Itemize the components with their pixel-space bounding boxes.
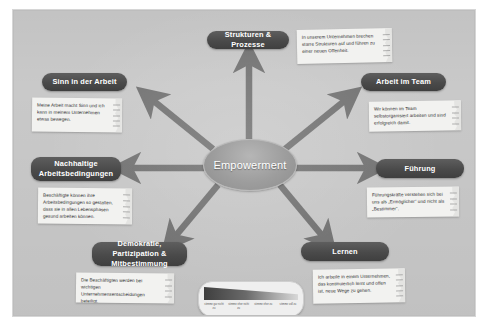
node-arbeit-im-team[interactable]: Arbeit im Team	[361, 73, 446, 91]
node-nachhaltige-arbeitsbedingungen[interactable]: Nachhaltige Arbeitsbedingungen	[31, 157, 121, 181]
note-rule-marks	[396, 272, 403, 298]
arrow-to-sinn	[150, 98, 213, 149]
center-node-label: Empowerment	[213, 159, 286, 171]
arrow-to-team	[285, 98, 348, 149]
note-arbeit-im-team: Wir können im Team selbstorganisiert arb…	[369, 100, 461, 131]
scale-label-0: stimme gar nicht zu	[203, 303, 225, 311]
node-sinn-in-der-arbeit-label: Sinn in der Arbeit	[52, 77, 116, 87]
note-rule-marks	[113, 102, 120, 128]
note-demokratie-partizipation-mitbestimmung-text: Die Beschäftigten werden bei wichtigen U…	[81, 277, 145, 303]
center-node-empowerment: Empowerment	[203, 139, 297, 191]
note-rule-marks	[165, 277, 172, 299]
arrow-to-lernen	[280, 185, 325, 239]
note-rule-marks	[123, 192, 130, 220]
scale-label-3: stimme voll zu	[277, 303, 299, 311]
scale-labels: stimme gar nicht zu stimme eher nicht zu…	[203, 303, 299, 311]
note-demokratie-partizipation-mitbestimmung: Die Beschäftigten werden bei wichtigen U…	[76, 272, 174, 303]
node-demokratie-partizipation-mitbestimmung[interactable]: Demokratie, Partizipation & Mitbestimmun…	[92, 242, 187, 266]
scale-label-2: stimme eher zu	[252, 303, 274, 311]
node-fuehrung-label: Führung	[404, 164, 435, 174]
node-lernen-label: Lernen	[332, 247, 358, 257]
node-sinn-in-der-arbeit[interactable]: Sinn in der Arbeit	[42, 73, 127, 91]
note-nachhaltige-arbeitsbedingungen-text: Beschäftigte können ihre Arbeitsbedingun…	[43, 193, 113, 220]
note-sinn-in-der-arbeit-text: Meine Arbeit macht Sinn und ich kann in …	[37, 103, 105, 123]
note-lernen-text: Ich arbeite in einem Unternehmen, das ko…	[318, 274, 390, 294]
node-lernen[interactable]: Lernen	[301, 242, 389, 261]
node-demokratie-partizipation-mitbestimmung-label: Demokratie, Partizipation & Mitbestimmun…	[99, 239, 180, 269]
arrow-to-demokratie	[173, 185, 218, 239]
note-strukturen-prozesse-text: In unserem Unternehmen brechen starre St…	[302, 33, 375, 54]
note-lernen: Ich arbeite in einem Unternehmen, das ko…	[313, 268, 406, 303]
node-arbeit-im-team-label: Arbeit im Team	[376, 77, 431, 87]
note-rule-marks	[383, 32, 391, 58]
node-strukturen-prozesse[interactable]: Strukturen & Prozesse	[207, 31, 289, 49]
slide-canvas: Empowerment Strukturen & Prozesse In uns…	[13, 10, 475, 316]
note-rule-marks	[450, 190, 457, 212]
note-rule-marks	[452, 104, 459, 126]
note-fuehrung: Führungskräfte verstehen sich bei uns al…	[367, 186, 459, 217]
scale-label-1: stimme eher nicht zu	[228, 303, 250, 311]
node-fuehrung[interactable]: Führung	[376, 159, 464, 178]
note-nachhaltige-arbeitsbedingungen: Beschäftigte können ihre Arbeitsbedingun…	[38, 188, 132, 225]
scale-gradient-wedge	[204, 287, 298, 300]
note-fuehrung-text: Führungskräfte verstehen sich bei uns al…	[372, 192, 444, 212]
node-strukturen-prozesse-label: Strukturen & Prozesse	[214, 30, 282, 50]
node-nachhaltige-arbeitsbedingungen-label: Nachhaltige Arbeitsbedingungen	[38, 159, 114, 179]
note-sinn-in-der-arbeit: Meine Arbeit macht Sinn und ich kann in …	[32, 98, 122, 133]
rating-scale-legend: stimme gar nicht zu stimme eher nicht zu…	[198, 281, 304, 316]
note-strukturen-prozesse: In unserem Unternehmen brechen starre St…	[297, 28, 393, 64]
note-arbeit-im-team-text: Wir können im Team selbstorganisiert arb…	[374, 106, 446, 126]
